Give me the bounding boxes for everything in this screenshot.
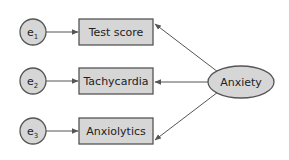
indicator-label: Tachycardia [82, 75, 148, 88]
indicator-tachycardia: Tachycardia [79, 68, 153, 94]
indicator-anxiolytics: Anxiolytics [79, 118, 153, 144]
error-node-e1: e1 [20, 19, 46, 45]
error-node-e3: e3 [20, 118, 46, 144]
latent-anxiety: Anxiety [208, 66, 274, 98]
indicator-label: Test score [88, 26, 144, 39]
arrow-anxiety-to-anxiolytics [155, 92, 218, 140]
indicator-test-score: Test score [79, 19, 153, 45]
error-subscript: 1 [34, 33, 38, 41]
error-node-e2: e2 [20, 68, 46, 94]
error-subscript: 3 [34, 132, 38, 140]
arrow-anxiety-to-test-score [155, 24, 218, 72]
indicator-label: Anxiolytics [86, 125, 146, 138]
sem-diagram: e1 e2 e3 Test score Tachycardia Anxiolyt… [0, 0, 289, 160]
latent-label: Anxiety [220, 76, 262, 89]
error-subscript: 2 [34, 82, 38, 90]
